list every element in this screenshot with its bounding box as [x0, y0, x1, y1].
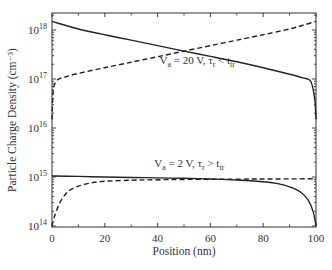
x-axis-title: Position (nm)	[153, 245, 216, 258]
y-tick-label: 1018	[28, 22, 47, 36]
y-axis-title: Particle Charge Density (cm⁻³)	[6, 48, 19, 192]
series-line-3	[52, 179, 316, 226]
x-tick-label: 40	[152, 232, 164, 244]
x-tick-label: 20	[99, 232, 111, 244]
x-tick-label: 60	[205, 232, 217, 244]
annotations: Va = 20 V, τr < ttrVa = 2 V, τr > ttr	[154, 54, 235, 172]
x-tick-label: 100	[308, 232, 325, 244]
series-line-2	[52, 176, 316, 226]
x-tick-labels: 020406080100	[49, 232, 325, 244]
plot-frame	[52, 13, 316, 227]
axis-ticks	[52, 13, 316, 227]
plot-border	[52, 13, 316, 227]
y-tick-labels: 10141015101610171018	[28, 22, 47, 232]
annotation-1: Va = 2 V, τr > ttr	[154, 157, 224, 172]
chart: 020406080100 10141015101610171018 Positi…	[0, 0, 332, 270]
x-tick-label: 0	[49, 232, 55, 244]
y-tick-label: 1015	[28, 169, 47, 183]
data-series	[52, 21, 316, 226]
y-tick-label: 1014	[28, 218, 47, 232]
y-tick-label: 1016	[28, 120, 47, 134]
annotation-0: Va = 20 V, τr < ttr	[159, 54, 235, 69]
y-tick-label: 1017	[28, 71, 47, 85]
x-tick-label: 80	[258, 232, 270, 244]
